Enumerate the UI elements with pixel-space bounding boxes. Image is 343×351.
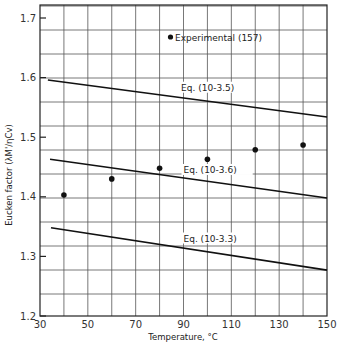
legend: Experimental (157) — [168, 33, 262, 43]
x-tick-label: 150 — [317, 319, 336, 330]
x-axis-ticks: 30507090110130150 — [34, 319, 337, 330]
x-tick-label: 90 — [177, 319, 190, 330]
grid-lines — [40, 5, 327, 316]
y-axis-ticks: 1.21.31.41.51.61.7 — [20, 13, 46, 322]
y-tick-label: 1.4 — [20, 191, 36, 202]
data-point — [157, 165, 163, 171]
x-tick-label: 70 — [129, 319, 142, 330]
equation-label: Eq. (10-3.5) — [181, 83, 234, 93]
data-point — [252, 147, 258, 153]
data-point — [61, 192, 67, 198]
data-point — [300, 142, 306, 148]
x-tick-label: 130 — [270, 319, 289, 330]
x-axis-title: Temperature, °C — [147, 332, 217, 342]
equation-lines: Eq. (10-3.5)Eq. (10-3.6)Eq. (10-3.3) — [48, 80, 327, 270]
y-axis-title: Eucken factor (λM'/ηCv) — [4, 124, 14, 226]
y-tick-label: 1.5 — [20, 132, 36, 143]
data-point — [109, 176, 115, 182]
x-tick-label: 50 — [81, 319, 94, 330]
legend-marker-icon — [168, 34, 173, 39]
y-tick-label: 1.3 — [20, 251, 36, 262]
y-tick-label: 1.6 — [20, 72, 36, 83]
x-tick-label: 110 — [222, 319, 241, 330]
eucken-factor-chart: 1.21.31.41.51.61.7 30507090110130150 Eq.… — [0, 0, 343, 351]
equation-label: Eq. (10-3.6) — [184, 165, 237, 175]
legend-label-experimental: Experimental (157) — [175, 33, 262, 43]
equation-label: Eq. (10-3.3) — [184, 234, 237, 244]
y-tick-label: 1.7 — [20, 13, 36, 24]
data-point — [205, 156, 211, 162]
x-tick-label: 30 — [34, 319, 47, 330]
